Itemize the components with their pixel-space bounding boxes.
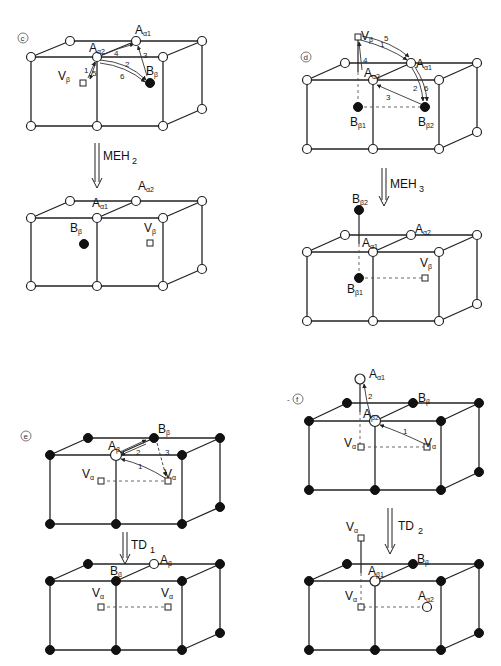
svg-text:3: 3: [143, 51, 148, 60]
site-label: Bβ1: [350, 115, 366, 130]
site-label: Bβ: [70, 221, 82, 236]
svg-text:2: 2: [125, 60, 130, 69]
svg-text:5: 5: [92, 69, 97, 78]
panel-e-tag: e: [24, 432, 29, 441]
panel-e-step-arrow: TD 1: [120, 532, 155, 564]
site-label: Bβ2: [418, 115, 434, 130]
site-label: Bβ2: [352, 192, 368, 207]
site-label: Vα: [92, 586, 104, 600]
panel-d-step-arrow: MEH 3: [379, 168, 424, 206]
panel-d: d 1 5 4 2: [301, 34, 482, 326]
svg-text:2: 2: [413, 84, 418, 93]
panel-f: - f 2 1: [287, 374, 484, 655]
site-label: Aα1: [92, 196, 108, 210]
site-label: Aα1: [362, 236, 378, 250]
svg-text:4: 4: [363, 56, 368, 65]
svg-text:1: 1: [138, 462, 143, 471]
site-label: Bβ: [417, 552, 429, 567]
site-label: Vα: [161, 586, 173, 600]
site-labels: Aα1Aα2VβBβAα2Aα1BβVβVβAα1Aα2Bβ1Bβ2Bβ2Aα2…: [58, 23, 436, 603]
site-label: Vα: [164, 467, 176, 481]
site-label: Aβ: [160, 553, 172, 568]
panel-f-step-arrow: TD 2: [385, 508, 423, 554]
site-label: Aα1: [369, 367, 385, 381]
vacancy-v-beta: [80, 80, 86, 86]
site-label: Vβ: [144, 221, 156, 236]
panel-f-after-lattice: [305, 535, 484, 655]
site-label: Vα: [344, 436, 356, 450]
site-label: Aβ2: [363, 407, 379, 422]
svg-text:6: 6: [424, 84, 429, 93]
site-label: Vα: [345, 589, 357, 603]
step-label-main: TD: [398, 519, 414, 533]
svg-text:2: 2: [136, 448, 141, 457]
step-label-main: MEH: [390, 177, 417, 191]
panel-d-tag: d: [304, 53, 308, 62]
site-label: Aα2: [89, 41, 105, 55]
site-label: Vβ: [361, 29, 373, 44]
svg-text:1: 1: [84, 66, 89, 75]
step-label-main: TD: [131, 538, 147, 552]
panel-e: e 2 1 3: [21, 431, 225, 655]
site-label: Vα: [424, 436, 436, 450]
atom-a-alpha1: [132, 37, 141, 46]
step-label-sub: 1: [150, 545, 155, 555]
site-label: Aα2: [415, 222, 431, 236]
panel-d-after-lattice: [303, 206, 482, 326]
site-label: Aα2: [138, 179, 154, 193]
svg-text:3: 3: [165, 448, 170, 457]
step-label-main: MEH: [103, 149, 130, 163]
site-label: Vβ: [420, 256, 432, 271]
panel-c-before-lattice: 1 5 4 2 6 3: [27, 37, 207, 131]
svg-text:6: 6: [120, 72, 125, 81]
panel-e-before-lattice: 2 1 3: [46, 434, 225, 529]
site-label: Bβ: [418, 391, 430, 406]
site-label: Aα2: [418, 589, 434, 603]
svg-text:2: 2: [368, 392, 373, 401]
panel-c-step-arrow: MEH 2: [92, 143, 137, 188]
site-label: Aα2: [364, 66, 380, 80]
svg-text:1: 1: [403, 427, 408, 436]
site-label: Bβ: [110, 564, 122, 579]
site-label: Aβ1: [368, 564, 384, 579]
svg-text:4: 4: [114, 49, 119, 58]
step-label-sub: 2: [132, 156, 137, 166]
site-label: Bβ: [158, 422, 170, 437]
panel-f-before-lattice: 2 1: [305, 374, 484, 495]
site-label: Vα: [346, 520, 358, 534]
site-label: Vα: [82, 467, 94, 481]
svg-text:5: 5: [384, 34, 389, 43]
site-label: Aβ: [108, 439, 120, 454]
panel-e-after-lattice: [46, 560, 225, 655]
site-label: Bβ1: [347, 282, 363, 297]
site-label: Aα1: [416, 57, 432, 71]
panel-c-after-lattice: [27, 197, 207, 291]
svg-text:-: -: [287, 395, 290, 404]
panel-c: c 1 5 4 2 6 3: [18, 33, 207, 291]
step-label-sub: 2: [418, 526, 423, 536]
panel-d-before-lattice: 1 5 4 2 6 3: [303, 34, 482, 154]
atom-b-beta: [146, 79, 155, 88]
panel-c-tag: c: [21, 34, 25, 43]
site-label: Bβ: [146, 64, 158, 79]
diffusion-mechanism-figure: c 1 5 4 2 6 3: [0, 0, 501, 666]
panel-f-tag: f: [296, 395, 299, 404]
step-label-sub: 3: [419, 184, 424, 194]
svg-text:3: 3: [386, 93, 391, 102]
site-label: Vβ: [58, 69, 70, 84]
site-label: Aα1: [135, 23, 151, 37]
